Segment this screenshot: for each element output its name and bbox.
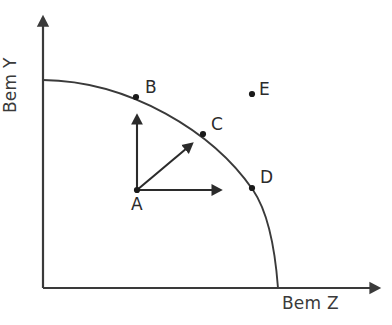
point-label-a: A — [131, 194, 143, 214]
point-label-b: B — [145, 77, 157, 97]
diagram-canvas — [0, 0, 392, 325]
data-point-a — [134, 187, 140, 193]
data-point-c — [200, 131, 206, 137]
data-point-e — [249, 91, 255, 97]
point-label-c: C — [211, 114, 223, 134]
point-label-e: E — [259, 79, 270, 99]
data-point-d — [249, 185, 255, 191]
data-point-b — [133, 94, 139, 100]
diagonal-arrow — [137, 148, 187, 190]
point-label-d: D — [260, 167, 273, 187]
ppf-diagram: Bem Y Bem Z A B C D E — [0, 0, 392, 325]
y-axis-label: Bem Y — [0, 95, 80, 113]
x-axis-label: Bem Z — [282, 293, 339, 313]
